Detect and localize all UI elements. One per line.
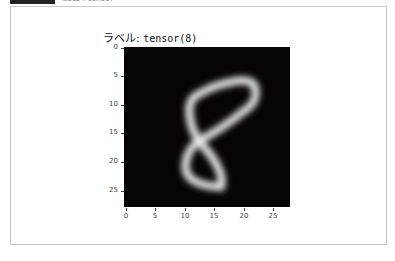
- y-tick-20: 20: [104, 157, 118, 165]
- x-tick-10: 10: [178, 212, 192, 220]
- y-tick-25: 25: [104, 186, 118, 194]
- y-tick-5: 5: [104, 71, 118, 79]
- image-plot: [124, 47, 290, 207]
- title-value: tensor(8): [143, 33, 197, 44]
- y-tick-0: 0: [104, 43, 118, 51]
- x-tick-20: 20: [237, 212, 251, 220]
- cut-header-text: data : tensor: [62, 0, 113, 3]
- y-tick-10: 10: [104, 100, 118, 108]
- x-tick-5: 5: [148, 212, 162, 220]
- y-tick-15: 15: [104, 128, 118, 136]
- top-bar: data : tensor: [0, 0, 395, 4]
- x-tick-0: 0: [119, 212, 133, 220]
- cell-tag: [10, 0, 55, 4]
- x-tick-25: 25: [266, 212, 280, 220]
- x-tick-15: 15: [207, 212, 221, 220]
